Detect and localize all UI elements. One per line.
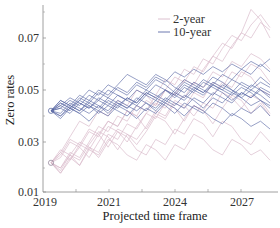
x-tick-label: 2024	[163, 195, 187, 209]
y-tick-label: 0.03	[18, 135, 39, 149]
legend: 2-year 10-year	[158, 12, 212, 39]
x-tick-label: 2021	[97, 195, 121, 209]
legend-label-2-year: 2-year	[173, 12, 206, 26]
y-axis-title: Zero rates	[3, 75, 17, 125]
legend-label-10-year: 10-year	[173, 25, 212, 39]
path-line	[51, 134, 270, 165]
zero-rates-chart: 0.010.030.050.07 2019202120242027 2-year…	[0, 0, 280, 228]
y-ticks: 0.010.030.050.07	[18, 12, 46, 199]
y-tick-label: 0.05	[18, 83, 39, 97]
x-tick-label: 2019	[33, 195, 57, 209]
x-tick-label: 2027	[230, 195, 254, 209]
x-axis-title: Projected time frame	[103, 209, 208, 223]
y-tick-label: 0.07	[18, 31, 39, 45]
